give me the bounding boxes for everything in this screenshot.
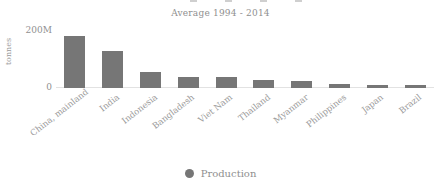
bar xyxy=(329,84,350,88)
y-axis-label: tonnes xyxy=(4,32,13,72)
bar xyxy=(178,77,199,88)
cropped-mark xyxy=(260,0,267,2)
y-axis: tonnes 0200M xyxy=(0,0,52,196)
bar xyxy=(367,85,388,88)
bar xyxy=(64,36,85,88)
chart-title: Average 1994 - 2014 xyxy=(0,8,441,18)
bar-chart: Average 1994 - 2014 tonnes 0200M China, … xyxy=(0,0,441,196)
cropped-mark xyxy=(225,0,232,2)
bar xyxy=(102,51,123,88)
cropped-top-marks xyxy=(0,0,441,4)
bar xyxy=(140,72,161,88)
bar xyxy=(405,85,426,88)
chart-legend: Production xyxy=(0,168,441,179)
bar-series-production xyxy=(56,31,434,88)
bar xyxy=(291,81,312,88)
y-axis-tick-label: 200M xyxy=(6,25,52,35)
y-axis-tick-label: 0 xyxy=(6,82,52,92)
legend-item-production: Production xyxy=(201,168,257,179)
bar xyxy=(253,80,274,88)
plot-area xyxy=(56,31,434,88)
cropped-mark xyxy=(190,0,197,2)
x-axis-tick-labels: China, mainlandIndiaIndonesiaBangladeshV… xyxy=(56,89,434,151)
bar xyxy=(216,77,237,88)
circle-marker-icon xyxy=(185,169,194,178)
cropped-mark xyxy=(295,0,302,2)
